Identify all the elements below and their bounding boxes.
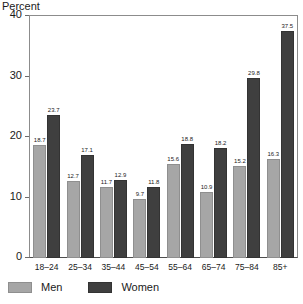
bar-group: 10.918.2	[197, 16, 230, 258]
bar[interactable]	[47, 115, 60, 258]
x-axis-tick-label: 85+	[264, 262, 297, 273]
bar-value-label: 10.9	[201, 184, 213, 191]
bar-wrapper: 10.9	[200, 16, 213, 258]
bar-value-label: 15.2	[234, 158, 246, 165]
bar[interactable]	[67, 181, 80, 258]
bar-group: 11.712.9	[97, 16, 130, 258]
bar[interactable]	[233, 166, 246, 258]
legend: MenWomen	[8, 281, 159, 294]
bar-wrapper: 12.7	[67, 16, 80, 258]
bar-wrapper: 9.7	[133, 16, 146, 258]
legend-label: Men	[41, 281, 62, 294]
x-axis-labels: 18–2425–3435–4445–5455–6465–7475–8485+	[30, 262, 297, 273]
bar-wrapper: 37.5	[281, 16, 294, 258]
bars-area: 18.723.712.717.111.712.99.711.815.618.81…	[30, 16, 297, 258]
bar-value-label: 23.7	[48, 107, 60, 114]
y-axis-tick-label: 20	[10, 129, 22, 142]
bar[interactable]	[267, 159, 280, 258]
bar[interactable]	[167, 164, 180, 258]
bar-wrapper: 17.1	[81, 16, 94, 258]
bar-group: 15.618.8	[164, 16, 197, 258]
bar-value-label: 37.5	[281, 23, 293, 30]
bar[interactable]	[200, 192, 213, 258]
bar-value-label: 18.7	[34, 137, 46, 144]
x-axis-tick-label: 55–64	[164, 262, 197, 273]
bar-wrapper: 29.8	[247, 16, 260, 258]
y-axis-tick-label: 30	[10, 69, 22, 82]
legend-swatch-men	[8, 282, 32, 293]
bar-value-label: 15.6	[167, 156, 179, 163]
bar-group: 12.717.1	[63, 16, 96, 258]
bar-wrapper: 11.7	[100, 16, 113, 258]
bar-wrapper: 15.2	[233, 16, 246, 258]
bar[interactable]	[281, 31, 294, 258]
bar-group: 15.229.8	[230, 16, 263, 258]
bar-wrapper: 18.2	[214, 16, 227, 258]
x-axis-tick-label: 65–74	[197, 262, 230, 273]
y-axis: 010203040	[0, 15, 30, 258]
bar-group: 18.723.7	[30, 16, 63, 258]
bar-wrapper: 11.8	[147, 16, 160, 258]
y-axis-tick-label: 0	[16, 250, 22, 263]
bar[interactable]	[33, 145, 46, 258]
bar-value-label: 9.7	[136, 191, 144, 198]
legend-label: Women	[121, 281, 159, 294]
bar-value-label: 18.8	[181, 136, 193, 143]
bar-wrapper: 18.7	[33, 16, 46, 258]
x-axis-tick-label: 45–54	[130, 262, 163, 273]
bar-value-label: 16.3	[267, 151, 279, 158]
bar-group: 16.337.5	[264, 16, 297, 258]
legend-swatch-women	[88, 282, 112, 293]
bar-wrapper: 15.6	[167, 16, 180, 258]
bar-wrapper: 23.7	[47, 16, 60, 258]
bar[interactable]	[100, 187, 113, 258]
x-axis-tick-label: 18–24	[30, 262, 63, 273]
bar[interactable]	[81, 155, 94, 258]
bar-value-label: 18.2	[215, 140, 227, 147]
x-axis-tick-label: 75–84	[230, 262, 263, 273]
bar-value-label: 11.7	[101, 179, 112, 186]
y-axis-tick-label: 10	[10, 190, 22, 203]
bar[interactable]	[214, 148, 227, 258]
y-axis-tick-label: 40	[10, 8, 22, 21]
bar-value-label: 11.8	[148, 179, 159, 186]
x-axis-tick-label: 25–34	[63, 262, 96, 273]
bar[interactable]	[181, 144, 194, 258]
legend-item-men[interactable]: Men	[8, 281, 62, 294]
bar[interactable]	[247, 78, 260, 258]
legend-item-women[interactable]: Women	[88, 281, 159, 294]
bar-value-label: 12.9	[115, 172, 127, 179]
bar[interactable]	[133, 199, 146, 258]
bar-value-label: 12.7	[67, 173, 79, 180]
x-axis-tick-label: 35–44	[97, 262, 130, 273]
bar-chart: Percent 010203040 18.723.712.717.111.712…	[0, 0, 303, 304]
bar[interactable]	[147, 187, 160, 258]
bar-value-label: 17.1	[81, 147, 93, 154]
bar-value-label: 29.8	[248, 70, 260, 77]
bar-wrapper: 12.9	[114, 16, 127, 258]
bar-wrapper: 18.8	[181, 16, 194, 258]
bar[interactable]	[114, 180, 127, 258]
bar-group: 9.711.8	[130, 16, 163, 258]
bar-wrapper: 16.3	[267, 16, 280, 258]
